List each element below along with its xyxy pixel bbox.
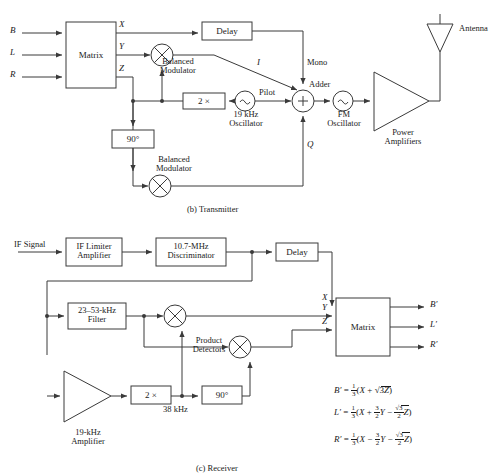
receiver-phase-shifter-box: 90°	[202, 386, 242, 404]
discriminator-box: 10.7-MHz Discriminator	[156, 242, 226, 261]
power-amplifiers-line2: Amplifiers	[372, 137, 434, 146]
equation-l-prime: L′ = 13(X + 32Y − √32Z)	[334, 405, 412, 420]
adder-label: Adder	[309, 80, 330, 89]
transmitter-input-r: R	[10, 70, 16, 80]
frequency-38khz-label: 38 kHz	[163, 405, 188, 414]
amplifier-19khz-label: 19-kHz Amplifier	[56, 428, 120, 447]
subcarrier-filter-box: 23–53-kHz Filter	[68, 306, 126, 325]
mono-label: Mono	[307, 58, 327, 67]
receiver-output-b: B′	[430, 300, 437, 310]
filter-line2: Filter	[68, 315, 126, 324]
balanced-modulator-upper-label: Balanced Modulator	[140, 57, 216, 76]
i-signal-label: I	[257, 58, 260, 68]
receiver-output-r: R′	[430, 340, 437, 350]
antenna-label: Antenna	[459, 24, 488, 33]
balanced-modulator-upper-line2: Modulator	[140, 66, 216, 75]
amplifier-19khz-line2: Amplifier	[56, 437, 120, 446]
receiver-output-l: L′	[430, 320, 437, 330]
transmitter-caption: (b) Transmitter	[187, 205, 238, 214]
transmitter-frequency-doubler-box: 2 ×	[183, 93, 225, 109]
transmitter-output-x: X	[119, 20, 125, 30]
balanced-modulator-lower-label: Balanced Modulator	[136, 155, 212, 174]
transmitter-matrix-box: Matrix	[66, 22, 116, 88]
oscillator-19khz-label: 19 kHz Oscillator	[218, 110, 274, 129]
fm-oscillator-line2: Oscillator	[316, 119, 372, 128]
product-detectors-line2: Detectors	[178, 345, 240, 354]
transmitter-output-y: Y	[119, 42, 124, 52]
fm-oscillator-label: FM Oscillator	[316, 110, 372, 129]
transmitter-phase-shifter-box: 90°	[112, 130, 154, 148]
receiver-input-y: Y	[322, 303, 327, 313]
power-amplifiers-label: Power Amplifiers	[372, 128, 434, 147]
if-limiter-line2: Amplifier	[66, 251, 122, 260]
equation-b-prime: B′ = 13(X + √3Z)	[334, 383, 392, 398]
pilot-label: Pilot	[259, 88, 275, 97]
if-signal-label: IF Signal	[14, 240, 45, 249]
transmitter-input-b: B	[10, 26, 16, 36]
discriminator-line2: Discriminator	[156, 251, 226, 260]
oscillator-19khz-line2: Oscillator	[218, 119, 274, 128]
receiver-delay-box: Delay	[276, 243, 318, 261]
receiver-matrix-box: Matrix	[336, 298, 390, 356]
q-signal-label: Q	[307, 140, 314, 150]
product-detectors-label: Product Detectors	[178, 336, 240, 355]
balanced-modulator-lower-line2: Modulator	[136, 164, 212, 173]
transmitter-output-z: Z	[119, 64, 124, 74]
receiver-caption: (c) Receiver	[196, 464, 238, 473]
receiver-input-z: Z	[322, 317, 327, 327]
receiver-frequency-doubler-box: 2 ×	[131, 386, 171, 404]
equation-r-prime: R′ = 13(X − 32Y − √32Z)	[334, 432, 412, 447]
if-limiter-amplifier-box: IF Limiter Amplifier	[66, 242, 122, 261]
fm-stereo-block-diagram: B L R Matrix X Y Z Delay Balanced Modula…	[0, 0, 492, 473]
transmitter-input-l: L	[10, 48, 15, 58]
transmitter-delay-box: Delay	[202, 22, 252, 40]
